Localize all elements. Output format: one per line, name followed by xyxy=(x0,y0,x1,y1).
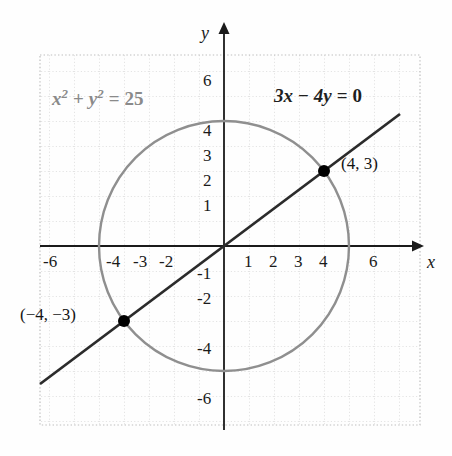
circle-eq-plus: + xyxy=(73,88,84,109)
line-equation-label: 3x−4y=0 xyxy=(274,86,362,105)
y-tick-2: 2 xyxy=(203,172,212,189)
x-tick-minus2: -2 xyxy=(159,253,173,270)
circle-equation-label: x2+y2=25 xyxy=(52,88,144,108)
x-tick-minus4: -4 xyxy=(106,253,120,270)
intersection-point-negative xyxy=(118,315,130,327)
circle-eq-y-exponent: 2 xyxy=(97,86,103,101)
y-tick-1: 1 xyxy=(203,197,212,214)
x-tick-minus6: -6 xyxy=(43,253,57,270)
circle-eq-equals: = xyxy=(109,88,120,109)
x-tick-6: 6 xyxy=(369,253,378,270)
line-eq-term1: 3x xyxy=(274,85,293,106)
y-tick-6: 6 xyxy=(203,72,212,89)
x-tick-4: 4 xyxy=(319,253,328,270)
y-tick-minus1: -1 xyxy=(197,265,211,282)
graph-figure: y x x2+y2=25 3x−4y=0 (4, 3) (−4, −3) -6 … xyxy=(0,0,452,456)
circle-eq-rhs: 25 xyxy=(125,88,144,109)
line-eq-equals: = xyxy=(337,85,348,106)
line-eq-term2: 4y xyxy=(314,85,332,106)
intersection-point-positive xyxy=(318,165,330,177)
x-tick-minus3: -3 xyxy=(133,253,147,270)
x-tick-1: 1 xyxy=(244,253,253,270)
circle-eq-x-exponent: 2 xyxy=(62,86,68,101)
y-tick-minus4: -4 xyxy=(197,340,211,357)
line-eq-minus: − xyxy=(298,85,309,106)
coordinate-plane xyxy=(0,0,452,456)
point-label-positive: (4, 3) xyxy=(341,155,378,172)
y-tick-minus2: -2 xyxy=(197,290,211,307)
circle-eq-y: y xyxy=(89,88,97,109)
y-tick-3: 3 xyxy=(203,147,212,164)
x-tick-3: 3 xyxy=(294,253,303,270)
y-tick-4: 4 xyxy=(203,122,212,139)
x-axis-label: x xyxy=(427,253,435,271)
y-tick-minus6: -6 xyxy=(197,390,211,407)
line-eq-rhs: 0 xyxy=(353,85,363,106)
point-label-negative: (−4, −3) xyxy=(20,306,76,323)
y-axis-label: y xyxy=(201,24,209,42)
x-tick-2: 2 xyxy=(269,253,278,270)
circle-eq-x: x xyxy=(52,88,62,109)
